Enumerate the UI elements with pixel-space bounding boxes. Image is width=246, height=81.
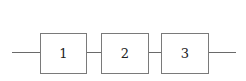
block-3: 3 xyxy=(161,33,209,74)
block-2: 2 xyxy=(101,33,149,74)
input-wire xyxy=(12,52,40,53)
block-1-label: 1 xyxy=(59,46,67,61)
block-1: 1 xyxy=(40,33,87,74)
block-3-label: 3 xyxy=(181,46,189,61)
block-2-label: 2 xyxy=(121,46,129,61)
output-wire xyxy=(209,52,236,53)
wire-2-3 xyxy=(149,52,161,53)
wire-1-2 xyxy=(87,52,101,53)
